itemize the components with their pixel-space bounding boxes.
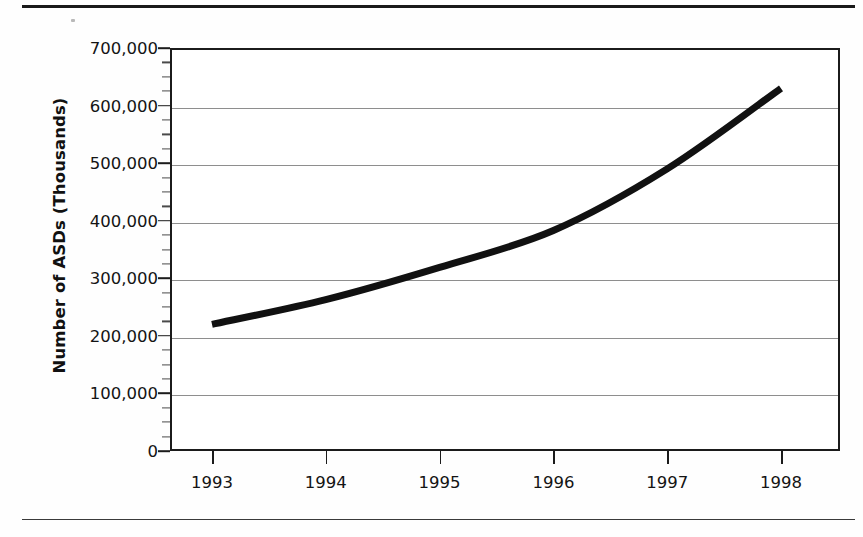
y-axis-major-tick	[158, 335, 170, 337]
y-axis-minor-tick	[162, 378, 170, 379]
y-axis-minor-tick	[162, 263, 170, 264]
gridline	[172, 165, 838, 166]
x-axis-tick-label: 1997	[612, 473, 722, 492]
x-axis-tick	[212, 451, 214, 464]
y-axis-minor-tick	[162, 91, 170, 92]
y-axis-tick-label: 100,000	[18, 384, 158, 403]
x-axis-tick-label: 1998	[726, 473, 836, 492]
y-axis-minor-tick	[162, 235, 170, 236]
y-axis-tick-label: 500,000	[18, 154, 158, 173]
y-axis-tick-label: 700,000	[18, 39, 158, 58]
x-axis-tick	[553, 451, 555, 464]
y-axis-tick-label: 300,000	[18, 269, 158, 288]
y-axis-minor-tick	[162, 321, 170, 322]
y-axis-minor-tick	[162, 206, 170, 207]
gridline	[172, 395, 838, 396]
gridline	[172, 280, 838, 281]
gridline	[172, 338, 838, 339]
y-axis-major-tick	[158, 105, 170, 107]
y-axis-minor-tick	[162, 62, 170, 63]
x-axis-tick-label: 1994	[271, 473, 381, 492]
x-axis-tick-label: 1995	[385, 473, 495, 492]
chart-alt-text: Line chart showing Number of ASDs (Thous…	[0, 0, 1, 1]
x-axis-tick-label: 1993	[157, 473, 267, 492]
chart-figure: Number of ASDs (Thousands) 0100,000200,0…	[0, 0, 863, 537]
y-axis-minor-tick	[162, 148, 170, 149]
y-axis-major-tick	[158, 277, 170, 279]
y-axis-minor-tick	[162, 119, 170, 120]
gridline	[172, 108, 838, 109]
x-axis-tick	[667, 451, 669, 464]
y-axis-minor-tick	[162, 134, 170, 135]
y-axis-minor-tick	[162, 350, 170, 351]
x-axis-tick	[440, 451, 442, 464]
y-axis-major-tick	[158, 393, 170, 395]
y-axis-tick-label: 200,000	[18, 326, 158, 345]
y-axis-minor-tick	[162, 364, 170, 365]
bottom-divider-rule	[22, 519, 855, 520]
x-axis-tick-label: 1996	[498, 473, 608, 492]
y-axis-tick-label: 400,000	[18, 211, 158, 230]
y-axis-minor-tick	[162, 422, 170, 423]
y-axis-minor-tick	[162, 436, 170, 437]
y-axis-tick-label: 600,000	[18, 96, 158, 115]
scan-artifact-speck	[71, 19, 75, 22]
y-axis-minor-tick	[162, 177, 170, 178]
y-axis-major-tick	[158, 47, 170, 49]
y-axis-minor-tick	[162, 407, 170, 408]
x-axis-tick	[326, 451, 328, 464]
y-axis-minor-tick	[162, 191, 170, 192]
y-axis-tick-label: 0	[18, 442, 158, 461]
y-axis-minor-tick	[162, 306, 170, 307]
x-axis-tick	[781, 451, 783, 464]
gridline	[172, 223, 838, 224]
y-axis-major-tick	[158, 450, 170, 452]
y-axis-major-tick	[158, 162, 170, 164]
y-axis-minor-tick	[162, 249, 170, 250]
top-divider-rule	[22, 5, 855, 8]
y-axis-minor-tick	[162, 76, 170, 77]
plot-area	[170, 48, 840, 451]
y-axis-major-tick	[158, 220, 170, 222]
y-axis-minor-tick	[162, 292, 170, 293]
